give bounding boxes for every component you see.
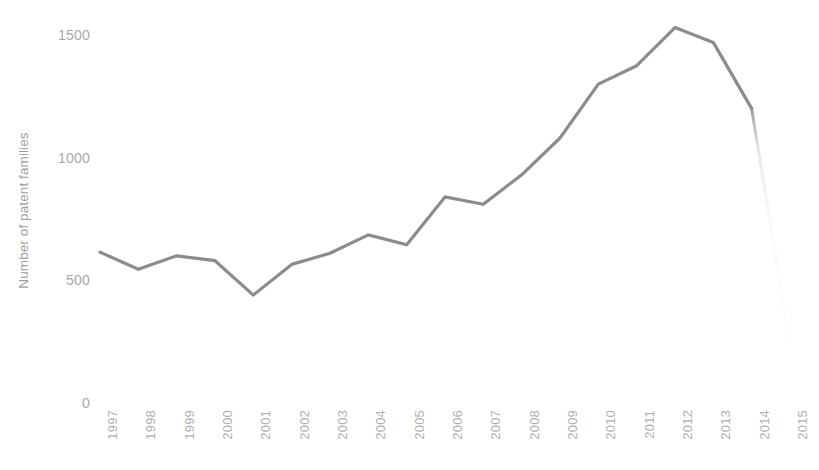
series-line-faded-tail	[752, 109, 790, 346]
x-axis-tick-2010: 2010	[603, 410, 618, 440]
x-axis-tick-2011: 2011	[642, 410, 657, 439]
x-axis-tick-2012: 2012	[680, 410, 695, 440]
x-axis-tick-labels: 1997199819992000200120022003200420052006…	[0, 404, 819, 470]
x-axis-tick-1997: 1997	[105, 410, 120, 440]
x-axis-tick-2008: 2008	[527, 410, 542, 440]
x-axis-tick-2005: 2005	[412, 410, 427, 440]
series-line-solid	[100, 28, 752, 296]
x-axis-tick-2001: 2001	[258, 410, 273, 440]
x-axis-tick-2002: 2002	[297, 410, 312, 440]
x-axis-tick-2000: 2000	[220, 410, 235, 440]
plot-area	[0, 0, 819, 470]
x-axis-tick-2009: 2009	[565, 410, 580, 440]
x-axis-tick-2006: 2006	[450, 410, 465, 440]
x-axis-tick-2007: 2007	[488, 410, 503, 440]
x-axis-tick-2014: 2014	[757, 410, 772, 440]
patent-families-line-chart: Number of patent families 050010001500 1…	[0, 0, 819, 470]
x-axis-tick-1999: 1999	[182, 410, 197, 440]
x-axis-tick-2003: 2003	[335, 410, 350, 440]
x-axis-tick-2013: 2013	[718, 410, 733, 440]
x-axis-tick-2015: 2015	[795, 410, 810, 440]
x-axis-tick-1998: 1998	[143, 410, 158, 440]
x-axis-tick-2004: 2004	[373, 410, 388, 440]
